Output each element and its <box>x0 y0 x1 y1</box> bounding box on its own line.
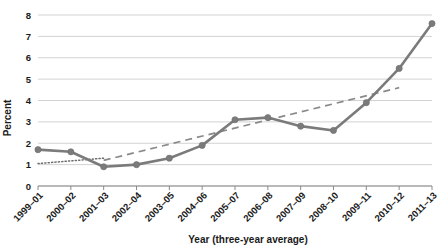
y-tick-label: 5 <box>26 74 32 85</box>
trendlines-group <box>38 88 399 164</box>
x-tick-label: 1999–01 <box>11 189 45 223</box>
data-point-marker <box>199 142 205 148</box>
y-tick-label: 2 <box>26 138 31 149</box>
data-point-marker <box>396 65 402 71</box>
x-axis-tick-marks <box>38 186 432 190</box>
x-axis-title: Year (three-year average) <box>188 234 308 245</box>
x-tick-label: 2007–09 <box>274 190 308 224</box>
y-tick-label: 3 <box>26 116 31 127</box>
x-tick-label: 2004–06 <box>175 190 209 224</box>
x-tick-label: 2001–03 <box>77 190 111 224</box>
line-chart-svg: 012345678 1999–012000–022001–032002–0420… <box>0 0 439 248</box>
y-axis-tick-labels: 012345678 <box>26 10 32 192</box>
x-tick-label: 2010–12 <box>372 190 406 224</box>
y-tick-label: 1 <box>26 159 32 170</box>
data-point-marker <box>429 20 435 26</box>
series-polyline <box>38 24 432 167</box>
data-point-marker <box>101 164 107 170</box>
x-axis-tick-labels: 1999–012000–022001–032002–042003–052004–… <box>11 189 439 223</box>
x-tick-label: 2005–07 <box>208 190 242 224</box>
data-point-marker <box>330 127 336 133</box>
x-tick-label: 2006–08 <box>241 190 275 224</box>
x-tick-label: 2008–10 <box>306 190 340 224</box>
x-tick-label: 2003–05 <box>142 189 176 223</box>
chart-container: 012345678 1999–012000–022001–032002–0420… <box>0 0 439 248</box>
gridlines-group <box>38 15 432 186</box>
data-series-group <box>35 20 435 169</box>
data-point-marker <box>298 123 304 129</box>
trendline-late-trendline <box>104 88 400 161</box>
x-tick-label: 2009–11 <box>340 189 374 223</box>
y-tick-label: 8 <box>26 10 31 21</box>
data-point-marker <box>265 115 271 121</box>
y-tick-label: 4 <box>26 95 32 106</box>
data-point-marker <box>363 100 369 106</box>
y-tick-label: 6 <box>26 52 31 63</box>
data-point-marker <box>232 117 238 123</box>
x-tick-label: 2002–04 <box>109 189 143 223</box>
y-tick-label: 7 <box>26 31 31 42</box>
x-tick-label: 2000–02 <box>44 190 78 224</box>
data-point-marker <box>133 162 139 168</box>
y-tick-label: 0 <box>26 181 31 192</box>
data-point-marker <box>35 147 41 153</box>
x-tick-label: 2011–13 <box>405 190 439 224</box>
data-point-marker <box>166 155 172 161</box>
data-point-marker <box>68 149 74 155</box>
y-axis-title: Percent <box>2 99 13 136</box>
